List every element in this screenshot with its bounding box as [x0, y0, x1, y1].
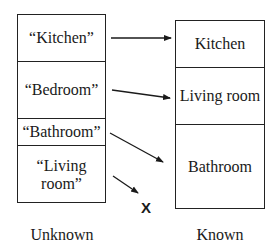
arrow-living-room-to-none [113, 176, 138, 193]
mapping-arrows [0, 0, 275, 252]
known-column-label: Known [175, 226, 265, 244]
unknown-column-label: Unknown [17, 226, 107, 244]
arrow-bedroom-to-living-room [112, 90, 170, 98]
arrow-bathroom-to-bathroom [110, 133, 163, 162]
no-match-x-icon: X [141, 199, 151, 216]
